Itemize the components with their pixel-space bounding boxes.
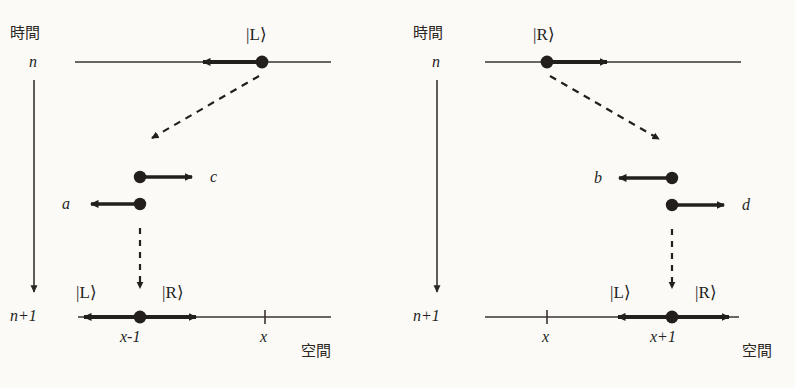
right-result-ket-L-label: |L⟩: [610, 284, 631, 301]
right-scatter-dashed-arrow: [550, 76, 659, 139]
left-result-ket-R-label: |R⟩: [162, 284, 184, 301]
right-site-label-main: x+1: [650, 329, 676, 345]
right-incoming-ket-label: |R⟩: [533, 26, 555, 43]
left-amplitude-a-dot: [134, 198, 146, 210]
right-amplitude-d-dot: [666, 199, 678, 211]
right-amplitude-b-label: b: [594, 170, 602, 186]
left-amplitude-c-dot: [134, 171, 146, 183]
right-space-axis-label: 空間: [742, 344, 772, 359]
right-time-axis-label: 時間: [413, 26, 443, 41]
left-site-label-tick: x: [260, 329, 267, 345]
left-amplitude-c-label: c: [210, 169, 217, 185]
left-row-n1-label: n+1: [10, 308, 37, 324]
quantum-walk-diagram: 時間 n |L⟩ c a n+1 |L⟩ |R⟩ x-1 x 空間 時間 n |…: [0, 0, 795, 388]
left-incoming-ket-label: |L⟩: [246, 26, 267, 43]
left-result-ket-L-label: |L⟩: [76, 284, 97, 301]
left-space-axis-label: 空間: [301, 344, 331, 359]
right-result-walker-dot: [666, 311, 679, 324]
right-row-n-label: n: [432, 54, 440, 70]
left-incoming-walker-dot: [256, 56, 269, 69]
left-row-n-label: n: [29, 54, 37, 70]
left-amplitude-a-label: a: [62, 196, 70, 212]
right-amplitude-d-label: d: [742, 197, 750, 213]
right-row-n1-label: n+1: [413, 308, 440, 324]
right-site-label-tick: x: [542, 329, 549, 345]
left-scatter-dashed-arrow: [152, 76, 259, 138]
left-site-label-main: x-1: [120, 329, 140, 345]
left-time-axis-label: 時間: [10, 26, 40, 41]
right-amplitude-b-dot: [666, 172, 678, 184]
left-result-walker-dot: [134, 311, 147, 324]
right-incoming-walker-dot: [541, 56, 554, 69]
right-result-ket-R-label: |R⟩: [695, 284, 717, 301]
